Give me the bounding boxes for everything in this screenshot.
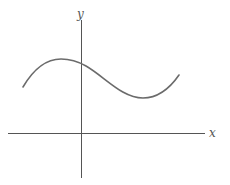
function-curve [23,59,179,98]
x-axis-label: x [209,126,216,140]
y-axis-label: y [76,7,84,21]
function-graph: y x [0,0,230,185]
